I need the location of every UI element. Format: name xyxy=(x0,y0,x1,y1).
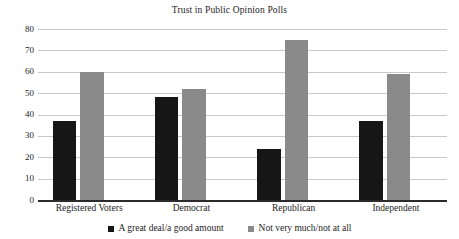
y-axis-tick-label: 10 xyxy=(4,174,34,183)
bar-democrat-series-1 xyxy=(182,89,206,200)
y-axis-tick-label: 20 xyxy=(4,153,34,162)
bar-republican-series-1 xyxy=(285,40,309,200)
y-axis-tick-label: 60 xyxy=(4,67,34,76)
bar-registered-voters-series-1 xyxy=(80,72,104,200)
gridline xyxy=(38,50,447,51)
bar-registered-voters-series-0 xyxy=(53,121,77,200)
bar-democrat-series-0 xyxy=(155,97,179,200)
y-axis-tick-label: 80 xyxy=(4,25,34,34)
gridline xyxy=(38,29,447,30)
bar-independent-series-1 xyxy=(387,74,411,200)
legend-label: A great deal/a good amount xyxy=(119,224,224,234)
x-axis-line xyxy=(38,200,447,202)
y-axis-tick-label: 0 xyxy=(4,196,34,205)
x-axis-label-republican: Republican xyxy=(243,203,345,213)
y-axis-tick-label: 30 xyxy=(4,131,34,140)
chart-title: Trust in Public Opinion Polls xyxy=(0,5,459,15)
y-axis-tick-label: 50 xyxy=(4,89,34,98)
x-axis-label-independent: Independent xyxy=(345,203,447,213)
y-axis-tick-labels: 80706050403020100 xyxy=(0,29,34,200)
x-axis-category-labels: Registered VotersDemocratRepublicanIndep… xyxy=(38,203,447,219)
bar-chart: Trust in Public Opinion Polls 8070605040… xyxy=(0,0,459,239)
bar-independent-series-0 xyxy=(359,121,383,200)
x-axis-label-democrat: Democrat xyxy=(140,203,242,213)
chart-legend: A great deal/a good amountNot very much/… xyxy=(0,221,459,237)
legend-swatch-icon xyxy=(248,226,254,232)
x-axis-label-registered-voters: Registered Voters xyxy=(38,203,140,213)
legend-item-0[interactable]: A great deal/a good amount xyxy=(108,224,224,234)
legend-item-1[interactable]: Not very much/not at all xyxy=(248,224,352,234)
y-axis-tick-label: 70 xyxy=(4,46,34,55)
plot-area xyxy=(38,29,447,200)
bar-republican-series-0 xyxy=(257,149,281,200)
y-axis-tick-label: 40 xyxy=(4,110,34,119)
legend-swatch-icon xyxy=(108,226,114,232)
legend-label: Not very much/not at all xyxy=(259,224,352,234)
